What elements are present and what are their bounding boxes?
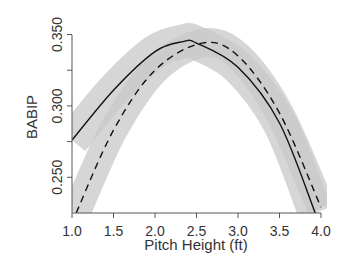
confidence-bands (72, 40, 321, 213)
y-axis-label: BABIP (23, 95, 40, 139)
babip-chart: 1.01.52.02.53.03.54.00.2500.3000.350 Pit… (0, 0, 351, 277)
y-tick-label: 0.250 (49, 160, 65, 195)
x-tick-label: 3.5 (270, 223, 290, 239)
x-tick-label: 1.5 (104, 223, 124, 239)
x-tick-label: 4.0 (311, 223, 331, 239)
y-tick-label: 0.300 (49, 88, 65, 123)
x-axis-label: Pitch Height (ft) (144, 236, 247, 253)
y-tick-label: 0.350 (49, 17, 65, 52)
x-tick-label: 1.0 (62, 223, 82, 239)
